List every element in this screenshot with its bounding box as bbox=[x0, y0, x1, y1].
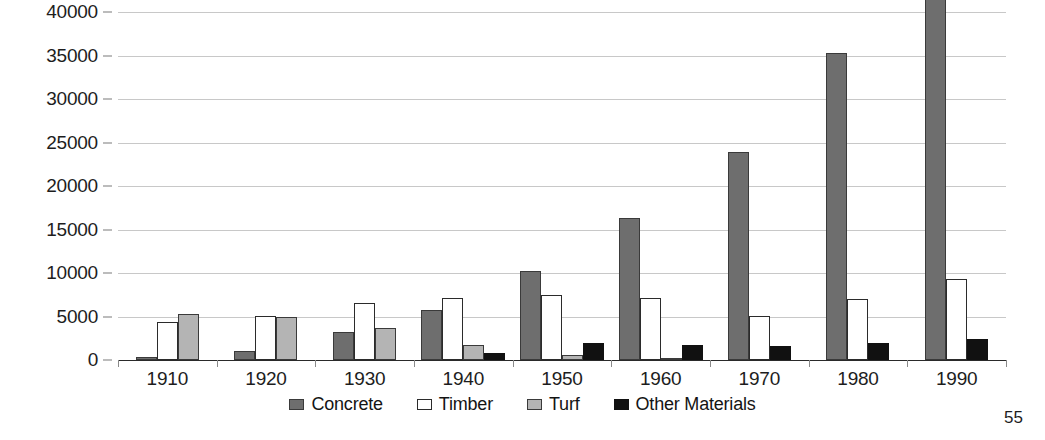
x-tick-label: 1950 bbox=[541, 368, 582, 390]
legend-label: Other Materials bbox=[636, 394, 756, 415]
bar-concrete-1990 bbox=[925, 0, 946, 360]
chart-page: 0500010000150002000025000300003500040000… bbox=[0, 0, 1045, 440]
legend-item-turf[interactable]: Turf bbox=[527, 394, 580, 415]
bar-group bbox=[907, 12, 1006, 360]
bar-turf-1930 bbox=[375, 328, 396, 360]
legend-label: Turf bbox=[549, 394, 580, 415]
bar-concrete-1980 bbox=[826, 53, 847, 360]
x-tick-mark bbox=[907, 360, 908, 367]
x-tick-mark bbox=[809, 360, 810, 367]
bar-timber-1930 bbox=[354, 303, 375, 360]
y-tick-label: 25000 bbox=[46, 132, 98, 154]
bar-turf-1920 bbox=[276, 317, 297, 360]
bar-group bbox=[217, 12, 316, 360]
y-tick-label: 40000 bbox=[46, 1, 98, 23]
x-tick-mark bbox=[315, 360, 316, 367]
bar-timber-1980 bbox=[847, 299, 868, 360]
legend-swatch-icon-timber bbox=[417, 399, 432, 410]
x-tick-mark bbox=[1006, 360, 1007, 367]
y-tick-mark bbox=[103, 186, 112, 187]
bar-other-1970 bbox=[770, 346, 791, 360]
y-tick-label: 30000 bbox=[46, 88, 98, 110]
legend-item-other[interactable]: Other Materials bbox=[614, 394, 756, 415]
y-tick-mark bbox=[103, 229, 112, 230]
bar-concrete-1930 bbox=[333, 332, 354, 360]
y-tick-mark bbox=[103, 12, 112, 13]
x-tick-mark bbox=[414, 360, 415, 367]
y-tick-mark bbox=[103, 360, 112, 361]
bar-group bbox=[611, 12, 710, 360]
bar-other-1950 bbox=[583, 343, 604, 360]
y-tick-mark bbox=[103, 142, 112, 143]
legend-swatch-icon-turf bbox=[527, 399, 542, 410]
y-tick-mark bbox=[103, 316, 112, 317]
bar-group bbox=[809, 12, 908, 360]
bar-group bbox=[315, 12, 414, 360]
y-tick-mark bbox=[103, 55, 112, 56]
bar-group bbox=[513, 12, 612, 360]
x-tick-mark bbox=[118, 360, 119, 367]
y-tick-label: 5000 bbox=[57, 306, 98, 328]
bar-timber-1990 bbox=[946, 279, 967, 360]
y-tick-label: 0 bbox=[88, 349, 98, 371]
legend-item-timber[interactable]: Timber bbox=[417, 394, 493, 415]
x-tick-label: 1980 bbox=[837, 368, 878, 390]
legend-label: Timber bbox=[439, 394, 493, 415]
bar-other-1990 bbox=[967, 339, 988, 360]
bar-concrete-1950 bbox=[520, 271, 541, 360]
bar-turf-1910 bbox=[178, 314, 199, 360]
legend-label: Concrete bbox=[311, 394, 382, 415]
x-tick-mark bbox=[710, 360, 711, 367]
bar-timber-1970 bbox=[749, 316, 770, 360]
bar-timber-1950 bbox=[541, 295, 562, 360]
chart-legend: ConcreteTimberTurfOther Materials bbox=[0, 394, 1045, 415]
y-axis: 0500010000150002000025000300003500040000 bbox=[0, 12, 112, 360]
y-tick-label: 20000 bbox=[46, 175, 98, 197]
x-tick-label: 1990 bbox=[936, 368, 977, 390]
x-tick-label: 1930 bbox=[344, 368, 385, 390]
bar-concrete-1920 bbox=[234, 351, 255, 360]
bar-concrete-1940 bbox=[421, 310, 442, 360]
bar-group bbox=[118, 12, 217, 360]
y-tick-label: 15000 bbox=[46, 219, 98, 241]
plot-area bbox=[118, 12, 1006, 360]
bar-timber-1960 bbox=[640, 298, 661, 360]
bar-group bbox=[414, 12, 513, 360]
legend-swatch-icon-other bbox=[614, 399, 629, 410]
legend-item-concrete[interactable]: Concrete bbox=[289, 394, 382, 415]
x-tick-mark bbox=[513, 360, 514, 367]
y-tick-mark bbox=[103, 99, 112, 100]
x-tick-mark bbox=[217, 360, 218, 367]
x-tick-label: 1920 bbox=[245, 368, 286, 390]
bar-timber-1920 bbox=[255, 316, 276, 360]
bar-other-1940 bbox=[484, 353, 505, 360]
bar-timber-1910 bbox=[157, 322, 178, 360]
x-tick-mark bbox=[611, 360, 612, 367]
x-tick-label: 1940 bbox=[443, 368, 484, 390]
y-tick-mark bbox=[103, 273, 112, 274]
bar-concrete-1960 bbox=[619, 218, 640, 360]
bar-group bbox=[710, 12, 809, 360]
bar-other-1980 bbox=[868, 343, 889, 360]
y-tick-label: 10000 bbox=[46, 262, 98, 284]
bar-timber-1940 bbox=[442, 298, 463, 360]
x-axis: 191019201930194019501960197019801990 bbox=[118, 360, 1006, 394]
x-tick-label: 1970 bbox=[739, 368, 780, 390]
x-tick-label: 1960 bbox=[640, 368, 681, 390]
x-tick-label: 1910 bbox=[147, 368, 188, 390]
bar-concrete-1970 bbox=[728, 152, 749, 360]
bars-layer bbox=[118, 12, 1006, 360]
legend-swatch-icon-concrete bbox=[289, 399, 304, 410]
bar-turf-1940 bbox=[463, 345, 484, 360]
y-tick-label: 35000 bbox=[46, 45, 98, 67]
bar-other-1960 bbox=[682, 345, 703, 360]
page-number: 55 bbox=[1004, 408, 1023, 428]
